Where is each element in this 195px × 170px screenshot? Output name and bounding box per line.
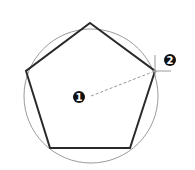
marker-2-label: 2	[167, 55, 174, 66]
pentagon	[26, 23, 155, 148]
marker-2: 2	[164, 54, 176, 66]
radius-dashed-line	[91, 71, 155, 96]
pentagon-diagram: 1 2	[0, 0, 195, 170]
marker-1: 1	[73, 91, 85, 103]
crosshair-point	[153, 69, 156, 72]
marker-1-label: 1	[76, 92, 83, 103]
